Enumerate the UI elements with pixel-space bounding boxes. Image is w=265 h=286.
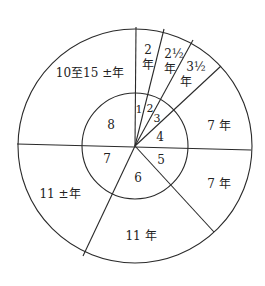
outer-label-1-line1: 2 bbox=[144, 43, 152, 57]
divider-top bbox=[135, 27, 136, 146]
inner-number-8: 8 bbox=[107, 118, 115, 132]
inner-number-4: 4 bbox=[156, 130, 164, 144]
inner-number-2: 2 bbox=[147, 102, 154, 115]
outer-label-8: 10至15 ±年 bbox=[56, 66, 124, 80]
outer-label-7: 11 ±年 bbox=[39, 187, 80, 201]
outer-label-3-line2: 年 bbox=[180, 75, 192, 89]
outer-label-2-line1: 2½ bbox=[164, 47, 183, 61]
outer-label-6: 11 年 bbox=[125, 229, 156, 243]
outer-label-2-line2: 年 bbox=[164, 62, 176, 76]
outer-label-4: 7 年 bbox=[207, 119, 230, 133]
concentric-pie-diagram: 2 年 2½ 年 3½ 年 7 年 7 年 11 年 11 ±年 10至15 ±… bbox=[0, 0, 265, 286]
divider-lower-right bbox=[135, 146, 214, 232]
outer-label-1-line2: 年 bbox=[142, 58, 154, 72]
inner-number-1: 1 bbox=[136, 103, 143, 116]
inner-number-5: 5 bbox=[157, 153, 165, 167]
inner-number-6: 6 bbox=[134, 171, 142, 185]
inner-number-3: 3 bbox=[154, 112, 161, 125]
outer-label-5: 7 年 bbox=[207, 177, 230, 191]
inner-number-7: 7 bbox=[103, 152, 111, 166]
outer-label-3-line1: 3½ bbox=[186, 60, 205, 74]
